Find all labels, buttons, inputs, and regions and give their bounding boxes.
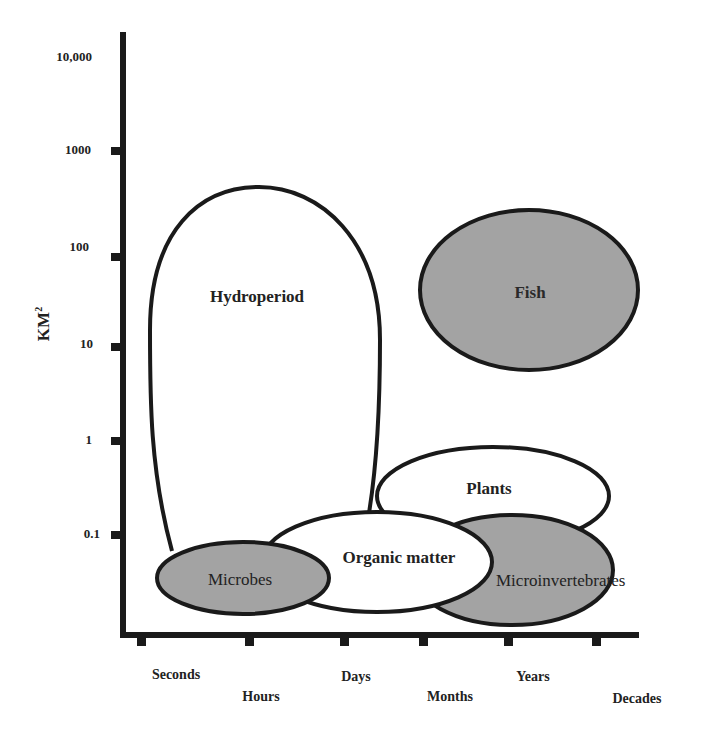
y-tick-label: 10,000 [56, 49, 92, 64]
label-hydroperiod: Hydroperiod [210, 287, 305, 306]
label-microbes: Microbes [208, 570, 272, 589]
x-tick-label: Days [341, 669, 371, 684]
y-tick-label: 100 [70, 239, 90, 254]
x-tick-label: Seconds [152, 667, 201, 682]
label-fish: Fish [514, 283, 546, 302]
x-tick-label: Months [427, 689, 473, 704]
y-tick-label: 0.1 [84, 526, 100, 541]
x-tick-label: Decades [613, 691, 663, 706]
label-plants: Plants [466, 479, 512, 498]
label-organic-matter: Organic matter [343, 548, 456, 567]
scale-diagram: 10,000 1000 100 10 1 0.1 KM2 Seconds Hou… [0, 0, 713, 740]
svg-text:KM2: KM2 [33, 307, 53, 341]
label-microinvertebrates: Microinvertebrates [496, 571, 625, 590]
x-tick-label: Years [516, 669, 550, 684]
y-axis-label: KM2 [33, 307, 53, 341]
region-hydroperiod [150, 187, 380, 551]
y-tick-label: 1 [86, 432, 93, 447]
x-tick-label: Hours [242, 689, 280, 704]
y-tick-label: 1000 [65, 142, 91, 157]
y-tick-label: 10 [80, 336, 93, 351]
